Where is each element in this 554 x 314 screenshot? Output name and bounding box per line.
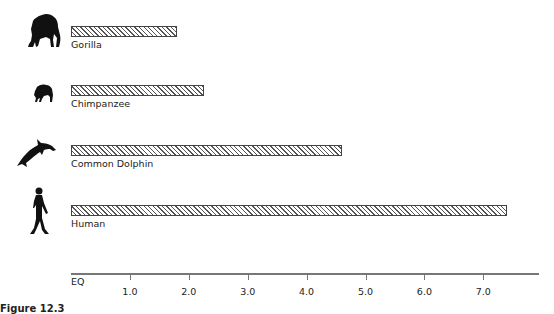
gorilla-icon <box>24 13 62 49</box>
x-axis-tick <box>189 274 190 280</box>
bar-human <box>71 205 507 216</box>
bar-common-dolphin <box>71 145 342 156</box>
chimpanzee-icon <box>32 84 54 102</box>
x-axis-tick <box>248 274 249 280</box>
x-axis-tick-label: 2.0 <box>181 286 196 297</box>
figure-caption: Figure 12.3 <box>0 303 64 314</box>
x-axis-tick <box>366 274 367 280</box>
bar-chimpanzee <box>71 85 204 96</box>
x-axis-tick <box>307 274 308 280</box>
label-common-dolphin: Common Dolphin <box>71 158 153 169</box>
x-axis-line <box>71 273 539 275</box>
label-chimpanzee: Chimpanzee <box>71 98 130 109</box>
x-axis-tick-label: 3.0 <box>240 286 255 297</box>
label-human: Human <box>71 218 105 229</box>
x-axis-tick <box>483 274 484 280</box>
x-axis-tick-label: 1.0 <box>122 286 137 297</box>
x-axis-tick-label: 4.0 <box>299 286 314 297</box>
dolphin-icon <box>15 136 57 168</box>
x-axis-tick <box>130 274 131 280</box>
label-gorilla: Gorilla <box>71 39 102 50</box>
x-axis-tick-label: 7.0 <box>476 286 491 297</box>
x-axis-tick-label: 5.0 <box>358 286 373 297</box>
x-axis-tick <box>424 274 425 280</box>
x-axis-tick-label: 6.0 <box>417 286 432 297</box>
human-icon <box>28 187 50 239</box>
bar-gorilla <box>71 26 177 37</box>
x-axis-label: EQ <box>71 276 84 287</box>
